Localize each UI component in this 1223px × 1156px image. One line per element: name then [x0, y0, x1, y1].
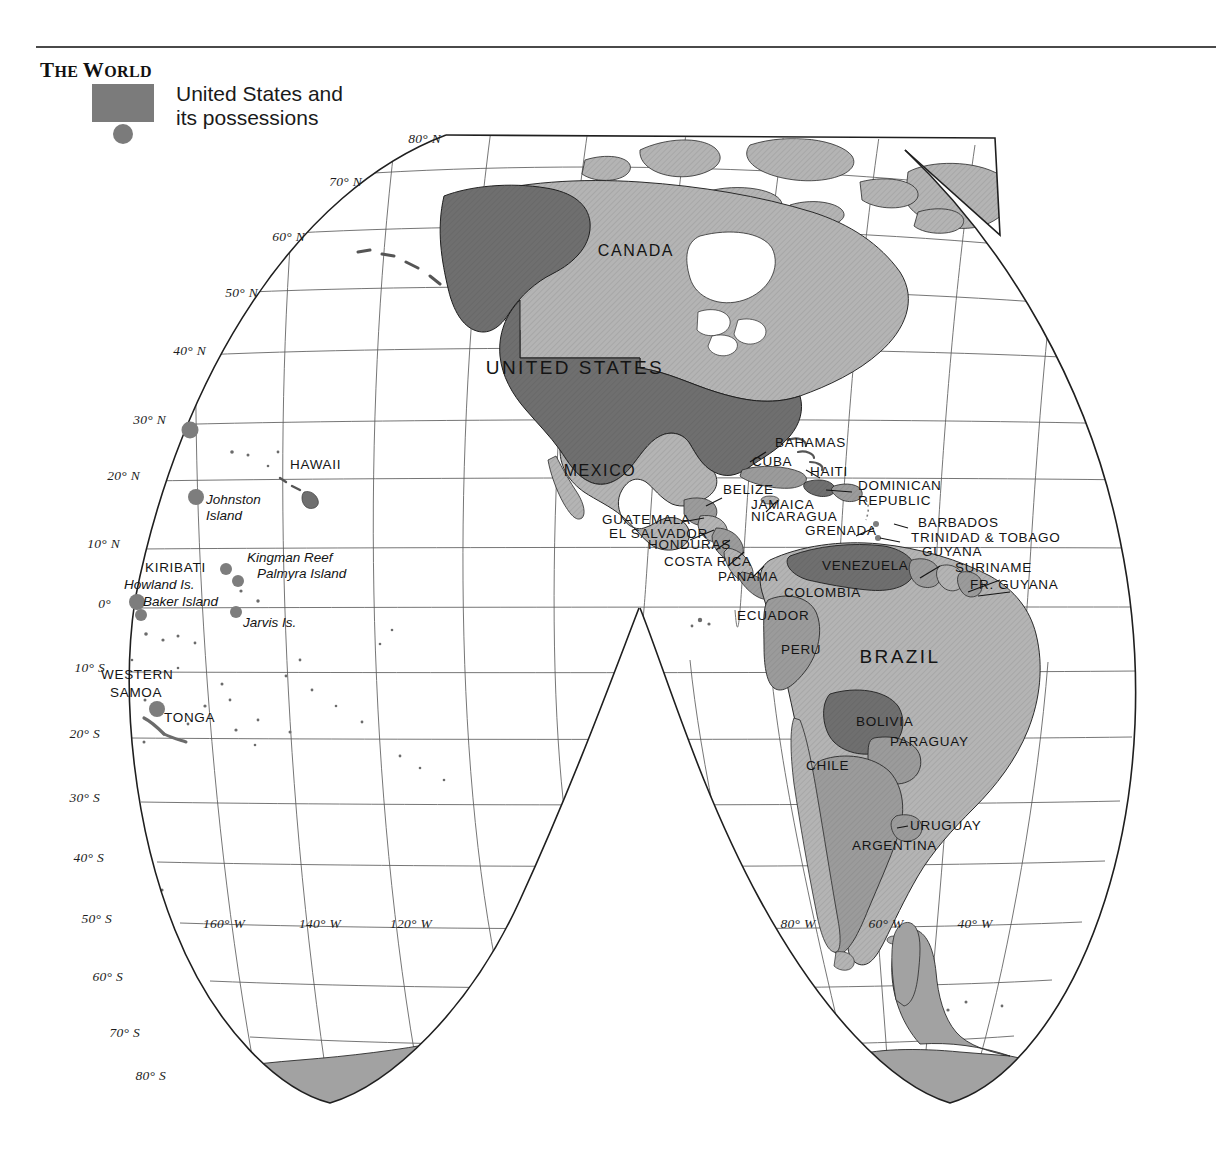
panama-label: PANAMA	[718, 569, 778, 584]
map-page: THE WORLD THE WORLD United States and it…	[0, 0, 1223, 1156]
latitude-label: 70° S	[109, 1025, 140, 1040]
latitude-label: 40° N	[173, 343, 206, 358]
palmyra-dot	[232, 575, 244, 587]
latitude-label: 50° S	[81, 911, 112, 926]
latitude-label: 30° S	[68, 790, 100, 805]
guyana-label: GUYANA	[922, 544, 982, 559]
barbados-label: BARBADOS	[918, 515, 999, 530]
suriname-label: SURINAME	[955, 560, 1032, 575]
latitude-label: 30° N	[132, 412, 166, 427]
western-samoa-1-label: WESTERN	[101, 667, 173, 682]
longitude-label: 140° W	[299, 916, 343, 931]
johnston-island-1-label: Johnston	[205, 492, 261, 507]
jarvis-is-label: Jarvis Is.	[242, 615, 296, 630]
latitude-label: 50° N	[225, 285, 258, 300]
grenada-label: GRENADA	[805, 523, 877, 538]
johnston-dot	[188, 489, 204, 505]
aleutian-islands	[358, 250, 440, 284]
howland-is-label: Howland Is.	[124, 577, 195, 592]
hawaii-label: HAWAII	[290, 457, 341, 472]
peru-label: PERU	[781, 642, 821, 657]
colombia-label: COLOMBIA	[784, 585, 861, 600]
longitude-label: 120° W	[390, 916, 434, 931]
longitude-label: 60° W	[868, 916, 904, 931]
latitude-label: 80° N	[408, 131, 441, 146]
hawaiian-islands	[280, 478, 318, 509]
brazil-label: BRAZIL	[860, 646, 941, 667]
howland-dot	[135, 609, 147, 621]
latitude-label: 10° N	[87, 536, 120, 551]
latitude-label: 10° S	[74, 660, 105, 675]
antarctica-west	[150, 1041, 465, 1124]
latitude-label: 70° N	[329, 174, 362, 189]
latitude-label: 0°	[98, 596, 111, 611]
belize-label: BELIZE	[723, 482, 774, 497]
fr-guyana-label: FR. GUYANA	[970, 577, 1059, 592]
tonga-label: TONGA	[164, 710, 215, 725]
western-samoa-2-label: SAMOA	[110, 685, 162, 700]
bolivia-label: BOLIVIA	[856, 714, 913, 729]
uruguay-label: URUGUAY	[910, 818, 981, 833]
landmasses	[131, 139, 1090, 1128]
jarvis-dot	[230, 606, 242, 618]
argentina-label: ARGENTINA	[852, 838, 937, 853]
latitude-label: 20° N	[107, 468, 140, 483]
costa-rica-label: COSTA RICA	[664, 554, 752, 569]
palmyra-island-label: Palmyra Island	[257, 566, 347, 581]
nicaragua-label: NICARAGUA	[751, 509, 838, 524]
latitude-label: 40° S	[73, 850, 104, 865]
johnston-island-2-label: Island	[206, 508, 243, 523]
latitude-label: 60° S	[92, 969, 123, 984]
chile-label: CHILE	[806, 758, 849, 773]
kingman-reef-label: Kingman Reef	[247, 550, 334, 565]
dominican-republic-2-label: REPUBLIC	[858, 493, 931, 508]
mexico-label: MEXICO	[564, 462, 637, 479]
canada-label: CANADA	[598, 242, 674, 259]
bahamas-label: BAHAMAS	[775, 435, 846, 450]
united-states-label: UNITED STATES	[486, 357, 664, 378]
antarctica-east	[842, 929, 1090, 1127]
paraguay-label: PARAGUAY	[890, 734, 969, 749]
longitude-label: 80° W	[780, 916, 816, 931]
kingman-dot	[220, 563, 232, 575]
cuba-label: CUBA	[752, 454, 792, 469]
longitude-label: 40° W	[957, 916, 993, 931]
latitude-label: 60° N	[272, 229, 305, 244]
baker-island-label: Baker Island	[143, 594, 219, 609]
guatemala-label: GUATEMALA	[602, 512, 691, 527]
latitude-label: 80° S	[135, 1068, 166, 1083]
haiti-label: HAITI	[810, 464, 848, 479]
trinidad-tobago-label: TRINIDAD & TOBAGO	[911, 530, 1060, 545]
world-map: CANADAUNITED STATESMEXICOBRAZIL HAWAIIKI…	[0, 0, 1223, 1156]
midway-dot	[182, 422, 199, 439]
ecuador-label: ECUADOR	[737, 608, 809, 623]
honduras-label: HONDURAS	[648, 537, 731, 552]
samoa-dot	[149, 701, 165, 717]
venezuela-label: VENEZUELA	[822, 558, 909, 573]
latitude-labels: 80° N70° N60° N50° N40° N30° N20° N10° N…	[68, 131, 441, 1083]
longitude-label: 160° W	[203, 916, 247, 931]
kiribati-label: KIRIBATI	[145, 560, 206, 575]
dominican-republic-1-label: DOMINICAN	[858, 478, 942, 493]
latitude-label: 20° S	[69, 726, 100, 741]
longitude-labels: 160° W140° W120° W80° W60° W40° W	[203, 916, 994, 931]
